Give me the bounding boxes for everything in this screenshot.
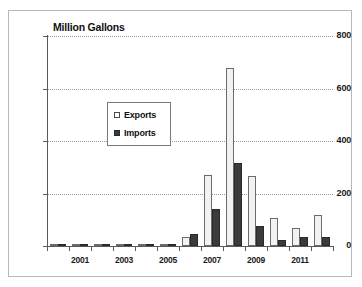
- bar-group-2010: [270, 36, 287, 246]
- bar-imports-2005: [168, 244, 176, 246]
- bar-group-2007: [204, 36, 221, 246]
- x-tick-mark: [91, 247, 92, 251]
- bar-group-2006: [182, 36, 199, 246]
- x-tick-mark: [267, 247, 268, 251]
- imports-swatch-icon: [114, 130, 120, 136]
- x-tick-mark: [333, 247, 334, 251]
- x-tick-label-2007: 2007: [192, 255, 232, 265]
- x-tick-mark: [201, 247, 202, 251]
- x-tick-label-2009: 2009: [236, 255, 276, 265]
- x-tick-mark: [245, 247, 246, 251]
- x-tick-mark: [47, 247, 48, 251]
- x-tick-label-2011: 2011: [280, 255, 320, 265]
- bar-imports-2008: [234, 163, 242, 246]
- bar-imports-2010: [278, 240, 286, 246]
- x-tick-mark: [311, 247, 312, 251]
- x-tick-label-2003: 2003: [104, 255, 144, 265]
- bar-group-2000: [50, 36, 67, 246]
- bar-group-2011: [292, 36, 309, 246]
- bar-imports-2011: [300, 237, 308, 246]
- x-tick-label-2005: 2005: [148, 255, 188, 265]
- chart-legend: Exports Imports: [107, 102, 171, 146]
- bar-exports-2003: [116, 244, 124, 246]
- bar-imports-2009: [256, 226, 264, 246]
- x-tick-mark: [113, 247, 114, 251]
- bar-imports-2000: [58, 244, 66, 246]
- x-tick-mark: [179, 247, 180, 251]
- x-tick-mark: [289, 247, 290, 251]
- bars-layer: [47, 36, 333, 246]
- bar-imports-2012: [322, 237, 330, 246]
- bar-exports-2001: [72, 244, 80, 246]
- bar-group-2009: [248, 36, 265, 246]
- bar-exports-2007: [204, 175, 212, 246]
- bar-group-2012: [314, 36, 331, 246]
- bar-imports-2006: [190, 234, 198, 246]
- x-tick-mark: [223, 247, 224, 251]
- bar-imports-2007: [212, 209, 220, 246]
- chart-figure: Million Gallons 0200400600800 2001200320…: [8, 10, 352, 277]
- bar-imports-2003: [124, 244, 132, 246]
- x-tick-label-2001: 2001: [60, 255, 100, 265]
- bar-exports-2009: [248, 176, 256, 246]
- bar-exports-2010: [270, 218, 278, 246]
- bar-exports-2005: [160, 244, 168, 246]
- legend-entry-imports: Imports: [114, 128, 156, 138]
- chart-title: Million Gallons: [53, 21, 125, 33]
- legend-label-exports: Exports: [124, 110, 156, 120]
- bar-group-2008: [226, 36, 243, 246]
- legend-entry-exports: Exports: [114, 110, 156, 120]
- bar-exports-2000: [50, 244, 58, 246]
- x-tick-mark: [135, 247, 136, 251]
- x-tick-mark: [69, 247, 70, 251]
- bar-exports-2008: [226, 68, 234, 247]
- x-tick-mark: [157, 247, 158, 251]
- exports-swatch-icon: [114, 112, 120, 118]
- bar-exports-2006: [182, 237, 190, 246]
- bar-imports-2002: [102, 244, 110, 246]
- bar-exports-2011: [292, 228, 300, 246]
- bar-exports-2004: [138, 244, 146, 246]
- bar-exports-2002: [94, 244, 102, 246]
- bar-group-2001: [72, 36, 89, 246]
- legend-label-imports: Imports: [124, 128, 156, 138]
- bar-exports-2012: [314, 215, 322, 247]
- bar-imports-2001: [80, 244, 88, 246]
- bar-imports-2004: [146, 244, 154, 246]
